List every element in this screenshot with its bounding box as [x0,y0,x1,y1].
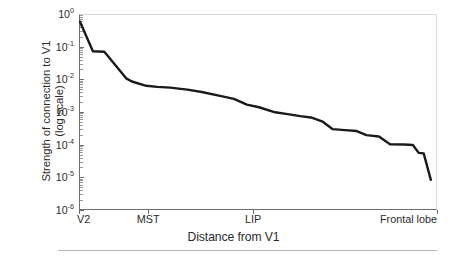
y-axis-tick-label: 10-1 [40,41,74,53]
x-axis-tick-label: LIP [245,213,261,225]
plot-area [79,14,437,210]
x-axis-tick-label: MST [137,213,160,225]
chart-figure: Strength of connection to V1 (log scale)… [0,0,467,258]
y-axis-tick-label: 10-5 [40,171,74,183]
y-axis-tick-label: 10-3 [40,106,74,118]
x-axis-title: Distance from V1 [0,230,467,244]
y-axis-tick-labels: 10010-110-210-310-410-510-6 [40,14,74,210]
y-axis-tick-label: 10-6 [40,204,74,216]
x-axis-tick-label: Frontal lobe [380,213,437,225]
curve-polyline [80,22,431,180]
connection-strength-line [80,15,438,211]
y-axis-tick-label: 100 [40,8,74,20]
y-axis-tick-label: 10-2 [40,73,74,85]
y-axis-tick-label: 10-4 [40,139,74,151]
caption-divider-rule [58,250,437,251]
x-axis-tick-mark [437,210,438,214]
x-axis-tick-label: V2 [77,213,90,225]
